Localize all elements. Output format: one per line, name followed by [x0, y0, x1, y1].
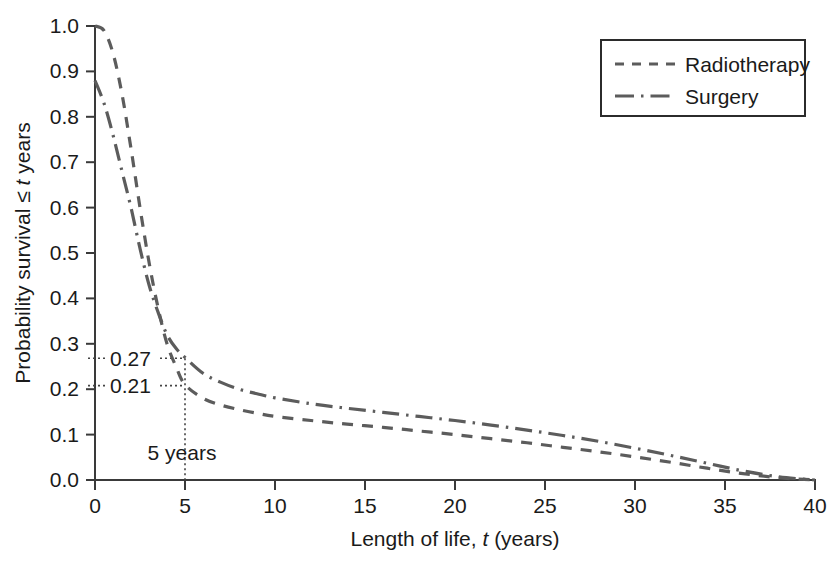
chart-canvas: 0.0 0.1 0.2 0.3 0.4 0.5 0.6 0.7 0.8 0.9 … — [0, 0, 837, 561]
y-axis-title-pre: Probability survival ≤ — [11, 185, 34, 383]
y-tick-label-5: 0.5 — [50, 241, 79, 264]
curve-surgery — [95, 80, 815, 480]
annotation-surgery-5yr: 0.27 — [110, 347, 151, 370]
y-tick-labels: 0.0 0.1 0.2 0.3 0.4 0.5 0.6 0.7 0.8 0.9 … — [50, 14, 80, 491]
x-tick-marks — [95, 480, 815, 490]
y-tick-label-4: 0.4 — [50, 286, 80, 309]
x-axis-title: Length of life, t (years) — [351, 527, 560, 550]
annotation-labels: 0.27 0.21 5 years — [110, 347, 216, 464]
y-axis-title-post: years — [11, 122, 34, 179]
x-tick-label-4: 20 — [443, 494, 466, 517]
annotation-radiotherapy-5yr: 0.21 — [110, 374, 151, 397]
legend: Radiotherapy Surgery — [601, 40, 810, 116]
x-tick-label-6: 30 — [623, 494, 646, 517]
x-tick-label-5: 25 — [533, 494, 556, 517]
x-tick-label-7: 35 — [713, 494, 736, 517]
x-tick-label-0: 0 — [89, 494, 101, 517]
y-tick-label-6: 0.6 — [50, 196, 79, 219]
y-tick-label-3: 0.3 — [50, 332, 79, 355]
annotation-five-years: 5 years — [148, 441, 217, 464]
y-tick-label-9: 0.9 — [50, 59, 79, 82]
y-tick-label-7: 0.7 — [50, 150, 79, 173]
x-axis-title-pre: Length of life, — [351, 527, 483, 550]
y-tick-label-0: 0.0 — [50, 468, 79, 491]
x-tick-label-3: 15 — [353, 494, 376, 517]
y-tick-marks — [86, 26, 95, 480]
x-axis-title-post: (years) — [488, 527, 559, 550]
survival-curve-figure: 0.0 0.1 0.2 0.3 0.4 0.5 0.6 0.7 0.8 0.9 … — [0, 0, 837, 561]
y-tick-label-2: 0.2 — [50, 377, 79, 400]
legend-label-radiotherapy: Radiotherapy — [685, 53, 810, 76]
x-tick-labels: 0 5 10 15 20 25 30 35 40 — [89, 494, 827, 517]
y-tick-label-1: 0.1 — [50, 423, 79, 446]
axis-titles: Length of life, t (years) Probability su… — [11, 122, 559, 550]
legend-label-surgery: Surgery — [685, 85, 759, 108]
y-tick-label-10: 1.0 — [50, 14, 79, 37]
y-tick-label-8: 0.8 — [50, 105, 79, 128]
x-tick-label-2: 10 — [263, 494, 286, 517]
x-tick-label-8: 40 — [803, 494, 826, 517]
x-tick-label-1: 5 — [179, 494, 191, 517]
y-axis-title: Probability survival ≤ t years — [11, 122, 34, 383]
